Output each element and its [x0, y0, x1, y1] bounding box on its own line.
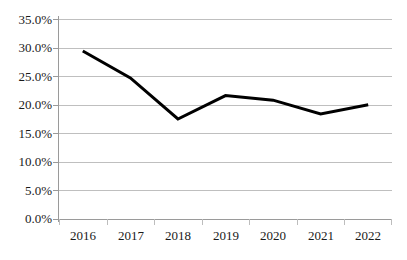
line-chart: 35.0% 30.0% 25.0% 20.0% 15.0% 10.0% 5.0%… [0, 0, 407, 260]
series-line [83, 51, 368, 119]
series-line-svg [0, 0, 407, 260]
